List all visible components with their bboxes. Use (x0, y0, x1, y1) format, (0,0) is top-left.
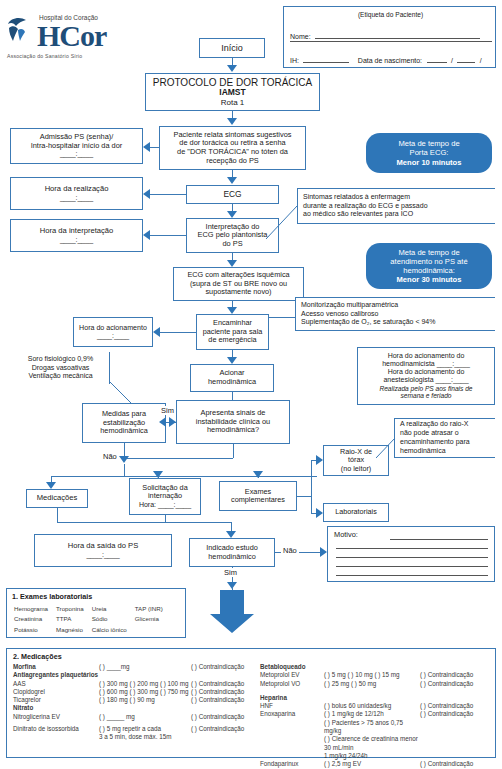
med-column-left: Morfina ( ) ____mg ( ) Contraindicação A… (13, 663, 256, 742)
motivo-line-3[interactable] (336, 557, 488, 558)
med-contra[interactable]: ( ) Contraindicação (191, 663, 256, 671)
label-sim-indicado: Sim (222, 568, 239, 577)
med-contra[interactable]: ( ) Contraindicação (420, 702, 492, 710)
node-encaminhar[interactable]: Encaminhar paciente para sala de emergên… (196, 314, 269, 350)
arrow-medicacoes (46, 482, 56, 489)
patient-ih-label: IH: (290, 57, 299, 64)
med-doses-extra[interactable]: ( ) Pacientes > 75 anos 0,75 mg/kg (324, 719, 420, 736)
table-row: HNF ( ) bolus 60 unidades/kg ( ) Contrai… (260, 702, 492, 710)
admissao-hora-input[interactable]: ____:____ (60, 150, 93, 158)
patient-name-input[interactable] (315, 30, 480, 39)
patient-blank-line[interactable] (290, 41, 492, 42)
med-doses[interactable]: ( ) 25 mg ( ) 50 mg (324, 680, 420, 688)
arrow-encaminhar-acionar (227, 357, 237, 364)
node-inicio[interactable]: Início (199, 38, 265, 58)
node-hora-interpretacao[interactable]: Hora da interpretação ____:____ (10, 219, 143, 252)
med-name: Morfina (13, 663, 99, 671)
med-doses[interactable]: ( ) ____mg (99, 663, 191, 671)
hemo-call-line-4[interactable]: anestesiologista ____:____ (383, 376, 468, 384)
med-contra[interactable]: ( ) Contraindicação (420, 710, 492, 718)
hora-saida-input[interactable]: ____:____ (86, 551, 119, 559)
acionar-line-2: hemodinâmica (208, 378, 256, 387)
node-ecg-alteracoes[interactable]: ECG com alterações isquêmica (supra de S… (173, 267, 304, 301)
med-doses[interactable]: ( ) 1 mg/kg de 12/12h (324, 710, 420, 718)
table-row: 3 a 5 min, dose máx. 15m (13, 733, 256, 741)
hemo-call-line-3: Hora do acionamento do (388, 368, 465, 376)
note-soro-line-3: Ventilação mecânica (14, 372, 107, 381)
med-contra[interactable]: ( ) Contraindicação (191, 680, 256, 688)
pill-meta-hemodinamica: Meta de tempo de atendimento no PS até h… (366, 243, 492, 289)
med-doses-extra[interactable]: ( ) Clearence de creatinina menor 30 mL/… (324, 735, 420, 752)
node-sintomas[interactable]: Paciente relata sintomas sugestivos de d… (159, 126, 306, 170)
arrow-ecg-interpretacao (227, 211, 237, 218)
patient-ih-input[interactable] (303, 54, 349, 63)
motivo-line-1[interactable] (390, 539, 488, 540)
note-monit-line-3: Suplementação de O₂, se saturação < 94% (301, 318, 493, 327)
birth-month-input[interactable] (457, 54, 475, 63)
label-nao-indicado: Não (281, 546, 299, 555)
med-section-header: Nitrato (13, 704, 256, 712)
note-monitorizacao: Monitorização multiparamétrica Acesso ve… (295, 297, 495, 331)
node-exames-complementares[interactable]: Exames complementares (219, 481, 297, 511)
node-motivo[interactable]: Motivo: (327, 526, 495, 582)
node-admissao[interactable]: Admissão PS (senha)/ Intra-hospitalar in… (10, 128, 143, 164)
med-contra[interactable]: ( ) Contraindicação (191, 696, 256, 704)
node-medidas-estabilizacao[interactable]: Medidas para estabilização hemodinâmica (82, 403, 166, 443)
motivo-line-2[interactable] (336, 548, 488, 549)
hora-interpretacao-label: Hora da interpretação (40, 227, 113, 236)
node-solicitacao-internacao[interactable]: Solicitação da internação Hora: ____:___… (129, 478, 201, 515)
med-doses[interactable]: ( ) bolus 60 unidades/kg (324, 702, 420, 710)
lab-cell: Ureia (92, 605, 133, 613)
birth-day-input[interactable] (427, 54, 447, 63)
motivo-line-5[interactable] (336, 575, 488, 576)
med-doses[interactable]: ( ) 300 mg ( ) 200 mg ( ) 100 mg (99, 680, 191, 688)
node-hora-realizacao[interactable]: Hora da realização ____:____ (10, 177, 143, 210)
connector-nao-left (124, 458, 233, 459)
med-contra[interactable]: ( ) Contraindicação (191, 688, 256, 696)
node-protocolo[interactable]: PROTOCOLO DE DOR TORÁCICA IAMST Rota 1 (145, 73, 320, 111)
leader-line-soro (110, 382, 134, 406)
note-raiox-line-4: hemodinâmica (400, 447, 493, 456)
med-doses[interactable]: ( ) 600 mg ( ) 300 mg ( ) 750 mg (99, 688, 191, 696)
arrow-motivo (320, 547, 327, 557)
lab-cell: Glicemia (135, 615, 169, 623)
table-row: Ticagrelor ( ) 180 mg ( ) 90 mg ( ) Cont… (13, 696, 256, 704)
node-hora-acionamento[interactable]: Hora do acionamento ____:____ (73, 317, 153, 347)
node-instabilidade[interactable]: Apresenta sinais de instabilidade clínic… (176, 400, 290, 444)
med-table-left: Morfina ( ) ____mg ( ) Contraindicação A… (13, 663, 256, 742)
node-medicacoes[interactable]: Medicações (26, 489, 88, 508)
solicitacao-hora-input[interactable]: Hora: ____:____ (139, 501, 191, 509)
node-ecg[interactable]: ECG (186, 185, 279, 204)
med-contra[interactable]: ( ) Contraindicação (191, 725, 256, 733)
med-doses[interactable]: ( ) 2,5 mg EV (324, 760, 420, 768)
table-row: Nitrato (13, 704, 256, 712)
med-contra[interactable]: ( ) Contraindicação (420, 680, 492, 688)
table-row: AAS ( ) 300 mg ( ) 200 mg ( ) 100 mg ( )… (13, 680, 256, 688)
medicacoes-label: Medicações (37, 494, 78, 503)
hora-realizacao-input[interactable]: ____:____ (60, 194, 93, 202)
med-doses[interactable]: ( ) 5 mg ( ) 10 mg ( ) 15 mg (324, 671, 420, 679)
node-acionar-hemodinamica[interactable]: Acionar hemodinâmica (190, 364, 274, 392)
note-enfermagem-line-2: durante a realização do ECG e passado (303, 202, 493, 211)
connector-exames-right (297, 496, 311, 497)
med-contra[interactable]: ( ) Contraindicação (191, 713, 256, 721)
table-row: Enoxaparina ( ) 1 mg/kg de 12/12h ( ) Co… (260, 710, 492, 718)
hora-acionamento-input[interactable]: ____:____ (97, 332, 129, 340)
laboratoriais-label: Laboratoriais (335, 508, 377, 516)
med-doses[interactable]: ( ) 180 mg ( ) 90 mg (99, 696, 191, 704)
med-doses[interactable]: ( ) _____ mg (99, 713, 191, 721)
date-sep-2: / (480, 57, 482, 64)
hora-interpretacao-input[interactable]: ____:____ (60, 236, 93, 244)
motivo-line-4[interactable] (336, 566, 488, 567)
hemo-call-line-5: Realizada pelo PS aos finais de (379, 385, 472, 393)
med-contra[interactable]: ( ) Contraindicação (420, 760, 492, 768)
node-hora-saida-ps[interactable]: Hora da saída do PS ____:____ (34, 534, 172, 567)
note-enfermagem-line-3: ao médico são relevantes para ICO (303, 210, 493, 219)
node-indicado-estudo[interactable]: Indicado estudo hemodinâmico (189, 538, 275, 567)
node-laboratoriais[interactable]: Laboratoriais (323, 503, 389, 522)
med-doses-extra: 1 mg/kg 24/24h (324, 752, 420, 760)
med-doses[interactable]: ( ) 5 mg repetir a cada (99, 725, 191, 733)
note-hora-acionamento-hemodinamicista[interactable]: Hora do acionamento do hemodinamicista _… (357, 347, 495, 405)
med-contra[interactable]: ( ) Contraindicação (420, 671, 492, 679)
hemo-call-line-2[interactable]: hemodinamicista ____:____ (382, 360, 470, 368)
